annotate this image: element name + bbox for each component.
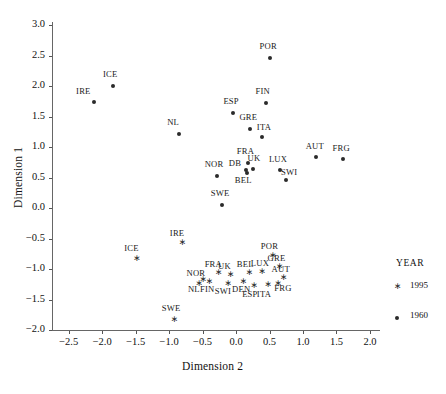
data-point-label: ESP [223, 96, 238, 106]
data-point-label: FIN [200, 284, 214, 294]
y-tick-label: −0.5 [12, 232, 45, 243]
data-point-1960-SWI [284, 178, 288, 182]
legend-label-1960: 1960 [410, 310, 428, 320]
data-point-label: SWE [211, 188, 230, 198]
y-tick-mark [49, 300, 52, 301]
data-point-1995-UK: ∗ [227, 272, 233, 278]
y-axis-line [52, 22, 53, 330]
data-point-1960-AUT [314, 155, 318, 159]
data-point-label: ICE [124, 243, 138, 253]
x-tick-mark [203, 331, 204, 334]
data-point-label: UK [247, 153, 260, 163]
data-point-label: UK [218, 261, 231, 271]
x-axis-line [52, 330, 380, 331]
data-point-label: POR [261, 241, 278, 251]
data-point-label: SWI [281, 167, 297, 177]
data-point-1995-FRA: ∗ [215, 270, 221, 276]
x-tick-mark [303, 331, 304, 334]
data-point-label: BEL [235, 175, 252, 185]
data-point-label: POR [260, 41, 277, 51]
data-point-1995-SWE: ∗ [171, 317, 177, 323]
data-point-1960-BEL [245, 171, 249, 175]
data-point-label: ESP [242, 289, 257, 299]
y-axis-title: Dimension 1 [12, 147, 24, 208]
data-point-1960-ICE [111, 84, 115, 88]
x-tick-mark [136, 331, 137, 334]
x-tick-mark [169, 331, 170, 334]
data-point-label: FRG [332, 143, 349, 153]
y-tick-mark [49, 269, 52, 270]
x-tick-mark [370, 331, 371, 334]
data-point-1960-FIN [264, 101, 268, 105]
x-tick-mark [102, 331, 103, 334]
data-point-1960-FRG [341, 157, 345, 161]
y-tick-mark [49, 25, 52, 26]
y-tick-label: 2.5 [12, 49, 45, 60]
data-point-1960-ITA [260, 135, 264, 139]
data-point-label: GRE [268, 253, 286, 263]
y-tick-mark [49, 330, 52, 331]
y-tick-mark [49, 147, 52, 148]
data-point-label: FRG [274, 283, 291, 293]
y-tick-mark [49, 178, 52, 179]
data-point-label: LUX [251, 258, 269, 268]
y-tick-mark [49, 117, 52, 118]
data-point-label: ITA [257, 289, 271, 299]
data-point-label: FIN [256, 86, 270, 96]
data-point-1960-ESP [231, 111, 235, 115]
x-axis-title: Dimension 2 [182, 360, 243, 372]
data-point-label: ITA [257, 122, 271, 132]
y-tick-label: −1.5 [12, 293, 45, 304]
data-point-label: DB [229, 158, 241, 168]
data-point-1995-BEL: ∗ [246, 270, 252, 276]
data-point-label: GRE [239, 112, 257, 122]
y-tick-mark [49, 239, 52, 240]
y-tick-label: −1.0 [12, 262, 45, 273]
x-tick-label: 2.0 [350, 336, 390, 347]
legend-marker-1995: ∗ [394, 284, 400, 290]
data-point-label: AUT [272, 264, 290, 274]
data-point-1960-IRE [92, 100, 96, 104]
data-point-1960-UK [251, 167, 255, 171]
legend-title: YEAR [396, 258, 424, 268]
data-point-label: SWI [215, 286, 231, 296]
data-point-1995-ICE: ∗ [133, 256, 139, 262]
data-point-1995-ITA: ∗ [265, 282, 271, 288]
data-point-label: NL [188, 284, 200, 294]
y-tick-mark [49, 208, 52, 209]
data-point-1960-NL [177, 132, 181, 136]
data-point-label: AUT [306, 141, 324, 151]
y-tick-mark [49, 86, 52, 87]
data-point-label: ICE [103, 69, 117, 79]
data-point-1995-IRE: ∗ [179, 240, 185, 246]
x-tick-mark [236, 331, 237, 334]
y-tick-label: 3.0 [12, 18, 45, 29]
data-point-1960-POR [268, 56, 272, 60]
y-tick-mark [49, 56, 52, 57]
y-tick-label: −2.0 [12, 323, 45, 334]
data-point-1960-GRE [248, 127, 252, 131]
data-point-1960-NOR [215, 174, 219, 178]
x-tick-mark [336, 331, 337, 334]
data-point-label: NOR [205, 159, 224, 169]
legend-label-1995: 1995 [410, 280, 428, 290]
data-point-label: NOR [187, 268, 206, 278]
scatter-plot: 3.02.52.01.51.00.50.0−0.5−1.0−1.5−2.0−2.… [0, 0, 446, 394]
x-tick-mark [69, 331, 70, 334]
data-point-label: IRE [76, 86, 90, 96]
data-point-label: SWE [162, 303, 181, 313]
x-tick-mark [270, 331, 271, 334]
y-tick-label: 2.0 [12, 79, 45, 90]
data-point-label: LUX [269, 154, 287, 164]
y-tick-label: 1.5 [12, 110, 45, 121]
data-point-1995-LUX: ∗ [259, 269, 265, 275]
legend-marker-1960 [395, 316, 399, 320]
data-point-label: IRE [170, 228, 184, 238]
data-point-1960-SWE [220, 203, 224, 207]
data-point-label: NL [167, 117, 179, 127]
